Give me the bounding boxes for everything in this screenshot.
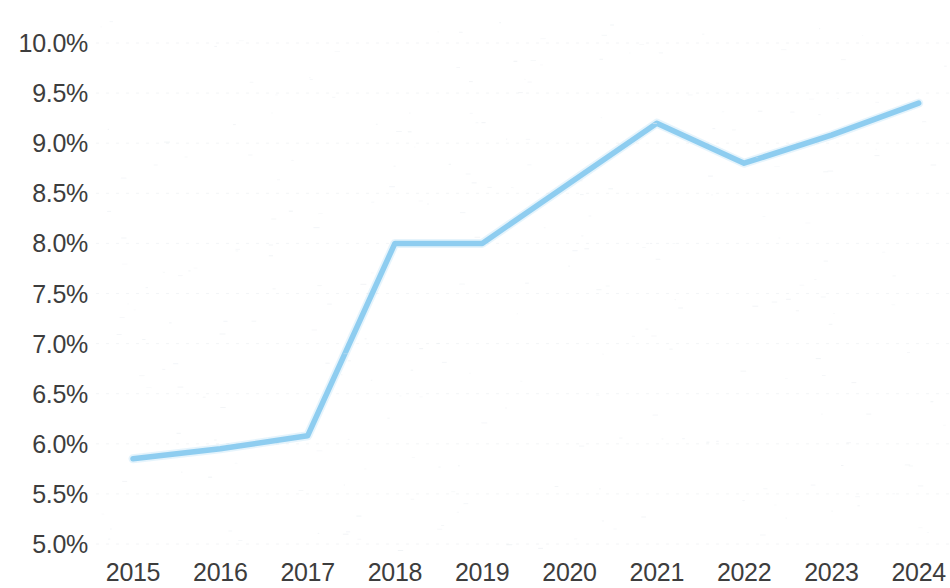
scan-speck (918, 485, 923, 486)
scan-speck (656, 259, 661, 260)
scan-speck (299, 490, 304, 491)
scan-speck (650, 243, 652, 244)
scan-speck (408, 131, 412, 132)
scan-speck (708, 176, 713, 177)
scan-speck (875, 155, 880, 156)
scan-speck (596, 395, 599, 396)
scan-speck (194, 268, 198, 269)
scan-speck (348, 439, 350, 440)
scan-speck (314, 227, 320, 228)
scan-speck (239, 40, 244, 41)
scan-speck (824, 261, 828, 262)
scan-speck (822, 375, 826, 376)
scan-speck (517, 313, 518, 314)
scan-speck (427, 204, 429, 205)
scan-speck (487, 187, 491, 188)
scan-speck (371, 202, 374, 203)
scan-speck (774, 166, 779, 167)
scan-speck (364, 468, 366, 469)
scan-speck (507, 544, 513, 545)
scan-speck (741, 371, 747, 372)
scan-speck (580, 180, 582, 181)
scan-speck (457, 512, 459, 513)
scan-speck (786, 518, 788, 519)
y-axis-tick-label: 9.0% (32, 129, 88, 157)
scan-speck (602, 520, 604, 521)
scan-speck (238, 540, 242, 541)
scan-speck (675, 299, 676, 300)
scan-speck (472, 182, 477, 183)
scan-speck (184, 157, 187, 158)
scan-speck (449, 164, 451, 165)
scan-speck (108, 129, 109, 130)
scan-speck (814, 279, 816, 280)
scan-speck (790, 112, 794, 113)
scan-speck (673, 243, 676, 244)
scan-speck (214, 46, 217, 47)
scan-speck (653, 415, 658, 416)
scan-speck (706, 442, 709, 443)
scan-speck (343, 353, 348, 354)
y-axis-tick-label: 5.0% (32, 530, 88, 558)
scan-speck (514, 61, 518, 62)
scan-speck (927, 532, 929, 533)
scan-speck (459, 284, 465, 285)
scan-speck (732, 129, 736, 130)
scan-speck (346, 531, 350, 532)
scan-speck (399, 395, 401, 396)
scan-speck (499, 22, 501, 23)
x-axis-tick-label: 2015 (106, 558, 160, 586)
scan-speck (511, 187, 513, 188)
scan-speck (318, 213, 322, 214)
scan-speck (107, 211, 111, 212)
scan-speck (922, 121, 926, 122)
scan-speck (713, 128, 716, 129)
scan-speck (356, 516, 361, 517)
scan-speck (376, 124, 378, 125)
scan-speck (580, 194, 584, 195)
scan-speck (277, 179, 280, 180)
scan-speck (875, 102, 879, 103)
scan-speck (610, 25, 614, 26)
scan-speck (823, 171, 828, 172)
scan-speck (893, 275, 896, 276)
scan-speck (412, 457, 415, 458)
scan-speck (456, 67, 460, 68)
scan-speck (458, 465, 460, 466)
chart-container: 5.0%5.5%6.0%6.5%7.0%7.5%8.0%8.5%9.0%9.5%… (0, 0, 950, 588)
scan-speck (344, 485, 345, 486)
scan-speck (437, 31, 439, 32)
scan-speck (173, 363, 178, 364)
scan-speck (857, 505, 859, 506)
scan-speck (228, 531, 232, 532)
scan-speck (641, 517, 646, 518)
y-axis-tick-label: 6.0% (32, 430, 88, 458)
scan-speck (169, 322, 171, 323)
scan-speck (866, 414, 871, 415)
scan-speck (360, 284, 366, 285)
scan-speck (178, 275, 183, 276)
scan-speck (944, 66, 947, 67)
scan-speck (223, 321, 227, 322)
scan-speck (214, 440, 217, 441)
scan-speck (538, 548, 543, 549)
scan-speck (662, 438, 664, 439)
scan-speck (629, 53, 630, 54)
scan-speck (659, 52, 663, 53)
scan-speck (816, 358, 821, 359)
scan-speck (711, 194, 713, 195)
scan-speck (540, 38, 546, 39)
scan-speck (608, 188, 613, 189)
scan-speck (181, 472, 182, 473)
scan-speck (154, 165, 158, 166)
x-axis-tick-label: 2022 (717, 558, 771, 586)
scan-speck (821, 414, 822, 415)
y-axis-tick-label: 8.5% (32, 179, 88, 207)
scan-speck (525, 283, 529, 284)
scan-speck (236, 250, 239, 251)
scan-speck (460, 212, 465, 213)
scan-speck (108, 539, 110, 540)
scan-speck (248, 155, 252, 156)
scan-speck (848, 92, 852, 93)
scan-speck (589, 216, 592, 217)
